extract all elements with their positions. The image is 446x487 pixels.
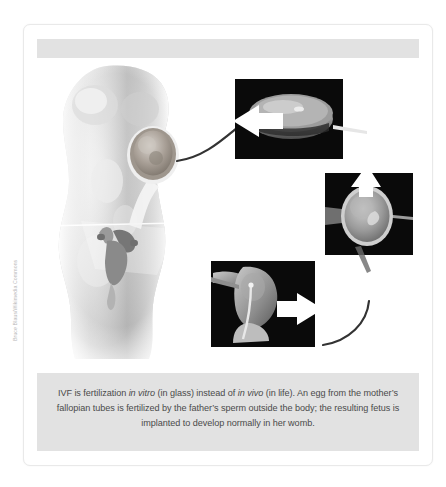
oocyte-highlight <box>350 196 372 218</box>
follicle-shadow <box>149 151 163 165</box>
figure-page: Bruce Blaus/Wikimedia Commons <box>0 0 446 487</box>
uterus-photo-highlight <box>241 273 265 301</box>
flow-line-egg-to-uterus <box>323 301 369 345</box>
source-credit: Bruce Blaus/Wikimedia Commons <box>12 249 18 341</box>
torso-edge-fade <box>37 61 197 371</box>
catheter-tip <box>248 282 253 287</box>
petri-dish-specular <box>294 106 304 111</box>
figure-card: IVF is fertilization in vitro (in glass)… <box>23 24 433 466</box>
figure-caption: IVF is fertilization in vitro (in glass)… <box>37 386 419 432</box>
panel-petri-dish <box>233 79 367 161</box>
ivf-illustration <box>37 61 419 371</box>
panel-icsi-egg <box>325 165 415 273</box>
header-band <box>37 39 419 58</box>
caption-band: IVF is fertilization in vitro (in glass)… <box>37 373 419 451</box>
panel-uterus-transfer <box>211 261 323 349</box>
ivf-diagram-svg <box>37 61 419 371</box>
panel-ovary-body <box>37 61 197 371</box>
follicle-highlight <box>138 136 156 154</box>
